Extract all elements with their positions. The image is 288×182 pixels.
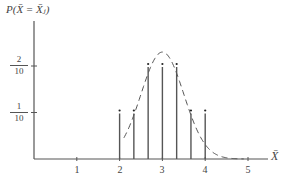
stem-dot bbox=[190, 109, 192, 111]
x-tick-label-3: 3 bbox=[156, 164, 168, 175]
stem-dot bbox=[147, 63, 149, 65]
x-tick-label-2: 2 bbox=[114, 164, 126, 175]
stem-dot bbox=[161, 63, 163, 65]
stem-dot bbox=[119, 109, 121, 111]
y-axis-label: P(X̄ = X̄ⱼ) bbox=[6, 4, 49, 15]
x-axis-label: X̄ bbox=[271, 150, 278, 162]
probability-stem-chart bbox=[0, 0, 288, 182]
stem-dot bbox=[204, 109, 206, 111]
stem-dot bbox=[133, 109, 135, 111]
x-tick-label-1: 1 bbox=[71, 164, 83, 175]
x-tick-label-4: 4 bbox=[199, 164, 211, 175]
x-tick-label-5: 5 bbox=[242, 164, 254, 175]
stem-dot bbox=[176, 63, 178, 65]
y-tick-label-1-10: 1 10 bbox=[10, 102, 28, 123]
normal-curve bbox=[124, 52, 244, 159]
stems bbox=[119, 63, 207, 159]
y-tick-label-2-10: 2 10 bbox=[10, 55, 28, 76]
